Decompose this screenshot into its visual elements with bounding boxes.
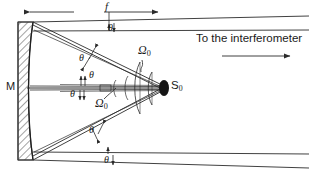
mirror-body <box>18 22 33 160</box>
source-spot <box>159 80 169 96</box>
omega-upper-leader <box>141 60 143 72</box>
lower-output-beam <box>33 152 309 168</box>
mirror-label: M <box>6 81 15 92</box>
ray-diagram-svg <box>0 0 309 174</box>
omega-upper-subscript: 0 <box>147 49 151 58</box>
source-label: S0 <box>171 80 183 93</box>
omega-lower-symbol: Ω <box>95 96 104 110</box>
source-letter: S <box>171 79 179 91</box>
theta-bottom-beam-label: θ <box>104 155 109 165</box>
theta-top-beam-label: θ <box>108 23 113 33</box>
omega-upper-symbol: Ω <box>138 43 147 57</box>
interferometer-label: To the interferometer <box>196 33 302 45</box>
theta-upper-ray-label: θ <box>79 53 84 63</box>
omega-lower-label: Ω0 <box>95 97 108 111</box>
source-subscript: 0 <box>179 84 183 93</box>
theta-lower-ray-label: θ <box>89 125 94 135</box>
omega-lower-subscript: 0 <box>104 102 108 111</box>
theta-axis-upper-label: θ <box>89 70 94 80</box>
omega-upper-label: Ω0 <box>138 44 151 58</box>
theta-axis-lower-label: θ <box>70 89 75 99</box>
upper-output-beam <box>33 16 309 31</box>
figure-canvas: M f To the interferometer S0 Ω0 Ω0 θ θ θ… <box>0 0 309 174</box>
focal-length-label: f <box>105 1 108 12</box>
axial-ray-bundle <box>27 85 164 92</box>
